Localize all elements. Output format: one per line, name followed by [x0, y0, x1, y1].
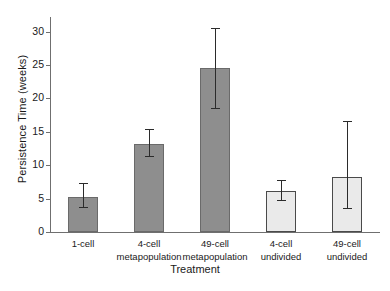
error-bar [83, 183, 84, 208]
error-bar [215, 28, 216, 109]
error-bar-cap-upper [79, 183, 88, 184]
error-bar-cap-lower [145, 156, 154, 157]
y-tick [46, 165, 50, 166]
y-tick-label: 10 [32, 158, 44, 171]
y-axis-line [50, 17, 51, 232]
error-bar-cap-lower [211, 108, 220, 109]
error-bar-cap-upper [343, 121, 352, 122]
bar-chart: Persistence Time (weeks) 051015202530 1-… [0, 0, 390, 291]
x-axis-line [50, 232, 380, 233]
error-bar [149, 129, 150, 158]
y-tick [46, 199, 50, 200]
error-bar-cap-lower [277, 200, 286, 201]
error-bar-cap-upper [277, 180, 286, 181]
y-tick-label: 25 [32, 58, 44, 71]
error-bar-cap-upper [211, 28, 220, 29]
y-tick-label: 15 [32, 125, 44, 138]
y-tick-label: 20 [32, 91, 44, 104]
y-tick-label: 30 [32, 25, 44, 38]
plot-area: 051015202530 [50, 25, 380, 232]
y-tick [46, 32, 50, 33]
error-bar [347, 121, 348, 209]
y-axis-title: Persistence Time (weeks) [16, 34, 28, 204]
y-tick [46, 232, 50, 233]
error-bar [281, 180, 282, 201]
y-tick-label: 0 [38, 225, 44, 238]
error-bar-cap-upper [145, 129, 154, 130]
x-axis-title: Treatment [0, 263, 390, 275]
y-tick-label: 5 [38, 192, 44, 205]
y-tick [46, 98, 50, 99]
y-tick [46, 65, 50, 66]
error-bar-cap-lower [343, 208, 352, 209]
y-tick [46, 132, 50, 133]
x-tick-label: 49-cell undivided [302, 238, 390, 263]
error-bar-cap-lower [79, 207, 88, 208]
